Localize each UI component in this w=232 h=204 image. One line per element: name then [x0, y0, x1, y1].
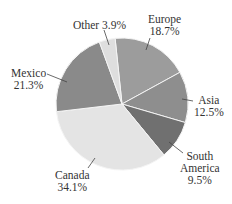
label-asia-name: Asia	[194, 94, 224, 106]
label-south-america: South America 9.5%	[180, 150, 220, 186]
label-other: Other 3.9%	[73, 19, 126, 31]
label-other-text: Other 3.9%	[73, 19, 126, 31]
label-mexico-name: Mexico	[11, 67, 46, 79]
label-south-america-name2: America	[180, 162, 220, 174]
label-europe: Europe 18.7%	[148, 13, 181, 37]
label-europe-name: Europe	[148, 13, 181, 25]
label-asia: Asia 12.5%	[194, 94, 224, 118]
pie-slices	[56, 38, 188, 170]
label-canada-name: Canada	[55, 169, 89, 181]
label-asia-value: 12.5%	[194, 106, 224, 118]
label-south-america-name1: South	[180, 150, 220, 162]
label-mexico: Mexico 21.3%	[11, 67, 46, 91]
label-south-america-value: 9.5%	[180, 174, 220, 186]
label-canada-value: 34.1%	[55, 181, 89, 193]
label-europe-value: 18.7%	[148, 25, 181, 37]
label-mexico-value: 21.3%	[11, 79, 46, 91]
label-canada: Canada 34.1%	[55, 169, 89, 193]
